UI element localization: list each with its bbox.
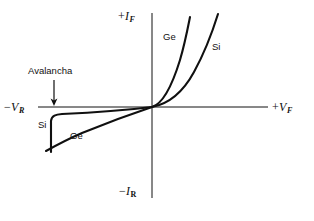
forward-curves-group	[152, 14, 218, 107]
curve-label-si-forward: Si	[212, 42, 220, 52]
curve-label-ge-forward: Ge	[163, 32, 176, 42]
curve-si-forward	[152, 14, 218, 107]
annotation-label-avalancha: Avalancha	[28, 66, 72, 76]
curve-label-si-reverse: Si	[38, 120, 46, 130]
axis-label-reverse-voltage: −VR	[4, 101, 24, 115]
curve-label-ge-reverse: Ge	[70, 131, 83, 141]
axis-label-vr-sign: −	[4, 100, 11, 114]
axis-label-if-sign: +	[118, 9, 125, 23]
avalanche-arrow	[51, 80, 58, 106]
axis-label-if-symbol: I	[125, 9, 129, 23]
axis-label-ir-symbol: I	[126, 184, 130, 198]
axis-label-vr-subscript: R	[19, 106, 25, 115]
axis-label-ir-subscript: R	[131, 190, 137, 199]
axis-label-forward-voltage: +VF	[272, 101, 292, 115]
curve-si-reverse-breakdown	[51, 107, 152, 152]
axes-group	[38, 13, 268, 198]
axis-label-if-subscript: F	[130, 15, 136, 24]
axis-label-vf-sign: +	[272, 100, 279, 114]
axis-label-vf-symbol: V	[279, 100, 287, 114]
axis-label-vr-symbol: V	[11, 100, 19, 114]
reverse-curves-group	[46, 107, 152, 152]
plot-canvas	[0, 0, 314, 221]
axis-label-vf-subscript: F	[287, 106, 293, 115]
axis-label-forward-current: +IF	[118, 10, 135, 24]
axis-label-ir-sign: −	[119, 184, 126, 198]
diode-iv-characteristic-figure: +IF −IR −VR +VF Ge Si Si Ge Avalancha	[0, 0, 314, 221]
axis-label-reverse-current: −IR	[119, 185, 137, 199]
